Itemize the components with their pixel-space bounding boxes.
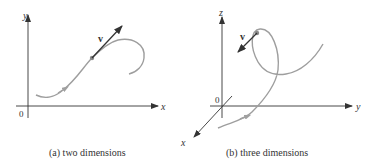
caption-b: (b) three dimensions: [226, 147, 308, 159]
curve-direction-arrow-icon-3d: [240, 116, 248, 119]
x-axis-label: x: [160, 101, 166, 112]
caption-a: (a) two dimensions: [49, 147, 126, 159]
origin-label: 0: [19, 109, 24, 119]
x-axis-label-3d: x: [180, 137, 186, 148]
y-axis-label-3d: y: [355, 101, 361, 112]
tangent-vector-arrow: [92, 26, 122, 58]
y-axis-label: y: [22, 10, 28, 21]
vector-label: v: [98, 33, 103, 44]
z-axis-label: z: [218, 7, 223, 18]
vector-label-3d: v: [240, 31, 245, 42]
panel-three-dimensions: z y x 0 v (b) three dimensions: [180, 7, 361, 159]
origin-label-3d: 0: [215, 95, 220, 105]
curve-direction-arrow-icon: [58, 88, 66, 93]
panel-two-dimensions: y x 0 v (a) two dimensions: [16, 10, 166, 159]
figure: y x 0 v (a) two dimensions z y x 0 v: [0, 0, 380, 166]
curve: [36, 39, 144, 97]
x-axis-3d: [194, 96, 232, 137]
curve-3d: [218, 29, 323, 128]
